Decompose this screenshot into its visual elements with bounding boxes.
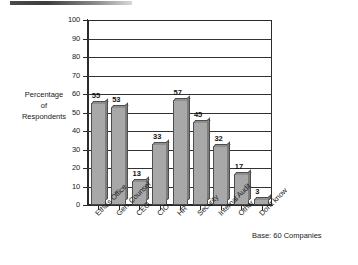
y-axis-tick [83,150,88,151]
bar-value-label: 33 [153,133,161,141]
bar-side-face [105,99,108,201]
y-axis-tick [83,20,88,21]
bar [152,144,167,205]
y-axis-tick-label: 10 [72,183,80,191]
bar-value-label: 53 [112,96,120,104]
bar-value-label: 57 [174,89,182,97]
y-axis-tick-label: 70 [72,72,80,80]
y-axis-title: Percentage of Respondents [8,89,80,122]
bar-value-label: 45 [194,111,202,119]
y-axis-tick [83,76,88,77]
y-axis-tick [83,113,88,114]
y-axis-tick-label: 100 [68,16,80,24]
y-axis-tick [83,94,88,95]
bar [91,103,106,205]
gridline [88,39,272,40]
y-axis-tick-label: 20 [72,164,80,172]
bar [173,100,188,205]
bar-value-label: 13 [133,170,141,178]
y-axis-tick-label: 80 [72,53,80,61]
y-axis-tick [83,205,88,206]
bar-value-label: 17 [235,163,243,171]
y-axis-title-line-3: Respondents [8,111,80,122]
y-axis-title-line-1: Percentage [8,89,80,100]
y-axis-tick-label: 0 [76,201,80,209]
gridline [88,76,272,77]
y-axis-tick [83,168,88,169]
bar-side-face [187,95,190,201]
y-axis-title-line-2: of [8,100,80,111]
y-axis-tick [83,57,88,58]
y-axis-tick-label: 40 [72,127,80,135]
x-axis-label: HR [176,204,189,217]
bar-side-face [166,139,169,201]
gridline [88,57,272,58]
bar-side-face [207,117,210,201]
bar-side-face [227,141,230,201]
bar-value-label: 3 [255,188,259,196]
y-axis-tick [83,187,88,188]
bar-value-label: 55 [92,92,100,100]
bar [193,122,208,205]
y-axis-tick [83,39,88,40]
y-axis-tick [83,131,88,132]
y-axis-tick-label: 30 [72,146,80,154]
bar-chart: 0102030405060708090100 Percentage of Res… [0,0,358,265]
bar-value-label: 32 [214,135,222,143]
y-axis-tick-label: 90 [72,35,80,43]
base-note: Base: 60 Companies [252,231,322,240]
